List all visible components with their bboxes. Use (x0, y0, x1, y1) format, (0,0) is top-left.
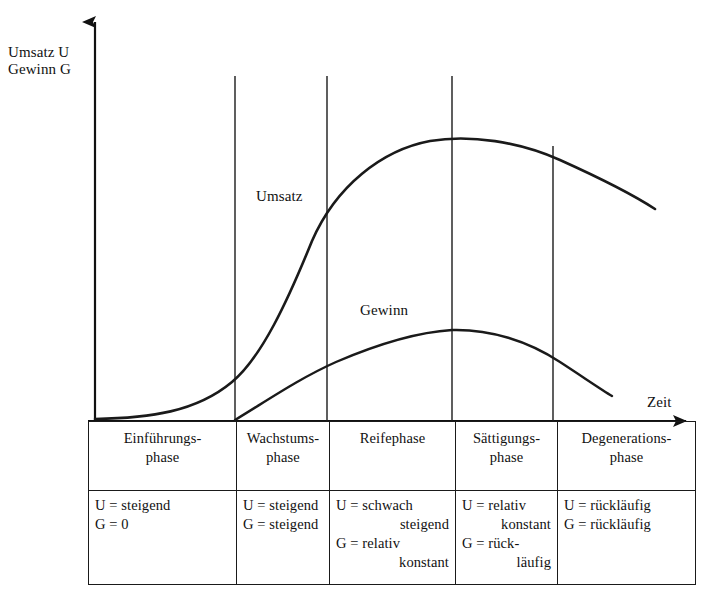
phase-detail-line: konstant (462, 515, 553, 534)
phase-name-line1: Einführungs- (89, 429, 236, 448)
phase-detail-line: U = steigend (243, 496, 325, 515)
phase-body-row: U = steigend G = 0 U = steigend G = stei… (89, 491, 696, 585)
umsatz-curve (95, 138, 655, 419)
phase-name-line1: Degenerations- (558, 429, 695, 448)
phase-detail-line: konstant (336, 553, 451, 572)
phase-detail-line: U = schwach (336, 496, 451, 515)
phase-detail-line: steigend (336, 515, 451, 534)
phase-detail-line: U = rückläufig (564, 496, 691, 515)
phase-detail-line: G = rückläufig (564, 515, 691, 534)
phase-name-line1: Reifephase (330, 429, 455, 448)
phase-header-cell: Einführungs- phase (89, 422, 237, 491)
phase-detail-line: läufig (462, 553, 553, 572)
phase-body-cell: U = relativ konstant G = rück- läufig (456, 491, 558, 585)
phase-detail-line: G = relativ (336, 534, 451, 553)
gewinn-curve (235, 330, 612, 420)
y-axis-label-line1: Umsatz U (8, 44, 69, 60)
phase-name-line2: phase (456, 448, 557, 467)
phase-header-row: Einführungs- phase Wachstums- phase Reif… (89, 422, 696, 491)
x-axis-label: Zeit (647, 394, 672, 411)
phase-name-line2: phase (89, 448, 236, 467)
phase-header-cell: Sättigungs- phase (456, 422, 558, 491)
phase-table: Einführungs- phase Wachstums- phase Reif… (88, 421, 696, 585)
phase-header-cell: Wachstums- phase (237, 422, 330, 491)
y-axis-label: Umsatz U Gewinn G (8, 44, 71, 78)
phase-detail-line: G = rück- (462, 534, 553, 553)
phase-name-line1: Wachstums- (237, 429, 329, 448)
phase-name-line1: Sättigungs- (456, 429, 557, 448)
phase-body-cell: U = steigend G = steigend (237, 491, 330, 585)
y-axis-label-line2: Gewinn G (8, 61, 71, 78)
phase-detail-line: G = 0 (95, 515, 232, 534)
phase-name-line2: phase (558, 448, 695, 467)
phase-body-cell: U = rückläufig G = rückläufig (558, 491, 696, 585)
phase-body-cell: U = schwach steigend G = relativ konstan… (330, 491, 456, 585)
phase-body-cell: U = steigend G = 0 (89, 491, 237, 585)
product-life-cycle-diagram: Umsatz U Gewinn G Zeit Umsatz Gewinn Ein… (0, 0, 715, 591)
phase-detail-line: G = steigend (243, 515, 325, 534)
phase-name-line2: phase (237, 448, 329, 467)
phase-header-cell: Degenerations- phase (558, 422, 696, 491)
phase-detail-line: U = steigend (95, 496, 232, 515)
phase-detail-line: U = relativ (462, 496, 553, 515)
phase-header-cell: Reifephase (330, 422, 456, 491)
gewinn-curve-label: Gewinn (360, 302, 408, 319)
umsatz-curve-label: Umsatz (256, 188, 302, 205)
